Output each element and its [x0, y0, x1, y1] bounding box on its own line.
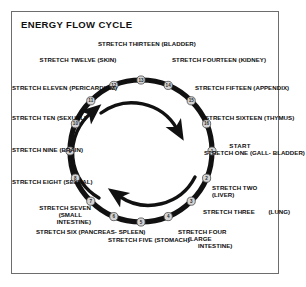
label-stretch-six: STRETCH SIX (PANCREAS- SPLEEN): [36, 228, 108, 235]
label-organ: (THYMUS): [264, 114, 292, 121]
label-stretch-ten: STRETCH TEN (SEXUAL): [12, 114, 84, 121]
marker-number-13: 13: [138, 78, 144, 83]
start-marker-label: START: [204, 142, 276, 149]
label-text: STRETCH THIRTEEN: [98, 40, 160, 47]
label-text: STRETCH TWO: [212, 184, 257, 191]
label-stretch-one: START STRETCH ONE (GALL- BLADDER): [204, 142, 276, 156]
inner-arrow-top: [101, 103, 177, 129]
label-stretch-eleven: STRETCH ELEVEN (PERICARDIUM): [12, 84, 95, 91]
marker-number-6: 6: [113, 214, 116, 219]
label-stretch-five: STRETCH FIVE (STOMACH): [108, 236, 180, 243]
marker-number-16: 16: [204, 121, 210, 126]
label-organ: (APPENDIX): [253, 84, 289, 91]
label-text: STRETCH SEVEN: [39, 204, 91, 211]
marker-number-14: 14: [166, 83, 172, 88]
label-stretch-seven: STRETCH SEVEN (SMALL INTESTINE): [12, 204, 91, 226]
label-text: STRETCH FOURTEEN: [172, 56, 237, 63]
label-organ: (LIVER): [212, 191, 282, 198]
label-organ-line1: (GALL-: [250, 149, 271, 156]
label-stretch-sixteen: STRETCH SIXTEEN (THYMUS): [205, 114, 283, 121]
figure-panel: ENERGY FLOW CYCLE 1234567891011121314151…: [11, 11, 279, 274]
label-organ: (SKIN): [97, 56, 116, 63]
label-text: STRETCH FOUR: [178, 228, 226, 235]
label-text: STRETCH EIGHT: [12, 178, 62, 185]
label-text: STRETCH ONE: [204, 149, 248, 156]
label-organ: (SEXUAL): [57, 114, 86, 121]
label-organ-line1: (LARGE: [178, 235, 264, 242]
label-stretch-four: STRETCH FOUR (LARGE INTESTINE): [178, 228, 264, 250]
label-stretch-nine: STRETCH NINE (BRAIN): [12, 146, 78, 153]
marker-number-5: 5: [140, 220, 143, 225]
label-organ: (KIDNEY): [239, 56, 266, 63]
inner-arrow-bottom: [119, 177, 195, 205]
label-organ: (PERICARDIUM): [69, 84, 117, 91]
label-organ-line2: INTESTINE): [57, 218, 91, 225]
label-stretch-fifteen: STRETCH FIFTEEN (APPENDIX): [195, 84, 279, 91]
marker-number-3: 3: [190, 199, 193, 204]
label-organ: (LUNG): [257, 208, 291, 215]
label-stretch-fourteen: STRETCH FOURTEEN (KIDNEY): [172, 56, 262, 63]
label-organ: (SEXUAL): [64, 178, 93, 185]
label-text: STRETCH ELEVEN: [12, 84, 68, 91]
label-text: STRETCH FIVE: [108, 236, 153, 243]
marker-number-2: 2: [205, 176, 208, 181]
label-organ: (BRAIN): [59, 146, 83, 153]
marker-number-11: 11: [88, 98, 93, 103]
label-stretch-thirteen: STRETCH THIRTEEN (BLADDER): [98, 40, 184, 47]
marker-number-15: 15: [189, 98, 195, 103]
label-stretch-eight: STRETCH EIGHT (SEXUAL): [12, 178, 80, 185]
label-organ-line2: INTESTINE): [178, 242, 264, 249]
label-organ-line1: (PANCREAS-: [79, 228, 117, 235]
label-text: STRETCH SIX: [36, 228, 77, 235]
label-text: STRETCH SIXTEEN: [205, 114, 262, 121]
label-stretch-three: STRETCH THREE (LUNG): [203, 208, 277, 215]
marker-number-10: 10: [73, 121, 79, 126]
label-stretch-twelve: STRETCH TWELVE (SKIN): [36, 56, 120, 63]
label-organ-line1: (SMALL: [12, 211, 91, 218]
label-text: STRETCH THREE: [203, 208, 255, 215]
label-organ-line2: SPLEEN): [119, 228, 146, 235]
label-organ-line2: BLADDER): [273, 149, 292, 156]
marker-number-4: 4: [167, 214, 170, 219]
label-text: STRETCH FIFTEEN: [195, 84, 252, 91]
label-stretch-two: STRETCH TWO (LIVER): [212, 184, 282, 198]
label-text: STRETCH TWELVE: [40, 56, 96, 63]
label-organ: (BLADDER): [162, 40, 196, 47]
label-text: STRETCH NINE: [12, 146, 58, 153]
label-text: STRETCH TEN: [12, 114, 55, 121]
